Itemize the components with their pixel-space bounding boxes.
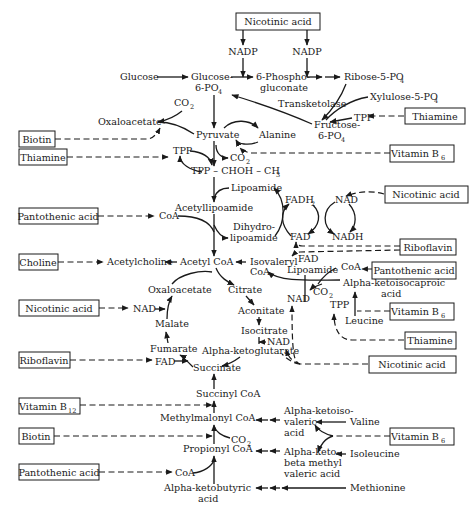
svg-text:6-PO: 6-PO: [195, 82, 219, 93]
propionyl-coa: Propionyl CoA: [183, 443, 254, 454]
6-phosphogluconate: 6-Phospho-: [256, 71, 310, 82]
citrate: Citrate: [228, 284, 262, 295]
aconitate: Aconitate: [237, 305, 285, 316]
label-vitamin-b6-mid: Vitamin B: [390, 306, 439, 317]
label-thiamine-low: Thiamine: [407, 335, 453, 346]
svg-text:valeric: valeric: [283, 416, 317, 427]
box-vitamin-b6-top: Vitamin B 6: [390, 145, 454, 162]
svg-text:valeric acid: valeric acid: [283, 468, 340, 479]
svg-text:4: 4: [434, 97, 438, 105]
svg-text:NADH: NADH: [332, 231, 363, 242]
svg-text:6-PO: 6-PO: [318, 130, 342, 141]
alpha-ketobutyric-acid: Alpha-ketobutyric: [163, 482, 251, 493]
svg-text:FAD: FAD: [298, 253, 319, 264]
box-thiamine-right: Thiamine: [405, 108, 465, 124]
fumarate: Fumarate: [150, 343, 198, 354]
svg-text:FAD: FAD: [290, 231, 311, 242]
svg-text:acid: acid: [198, 493, 218, 504]
glucose-6-po4: Glucose-: [191, 71, 233, 82]
svg-text:2: 2: [190, 103, 194, 111]
svg-text:Lipoamide: Lipoamide: [287, 264, 338, 275]
label-pantothenic-acid-low: Pantothenic acid: [18, 467, 99, 478]
svg-text:4: 4: [341, 136, 345, 144]
pyruvate: Pyruvate: [196, 129, 240, 140]
svg-text:4: 4: [400, 77, 404, 85]
acetyl-coa: Acetyl CoA: [179, 256, 234, 267]
box-nicotinic-acid-top: Nicotinic acid: [236, 13, 320, 30]
isocitrate: Isocitrate: [241, 325, 288, 336]
isoleucine: Isoleucine: [350, 448, 400, 459]
svg-text:6: 6: [441, 437, 445, 445]
glucose: Glucose: [120, 71, 159, 82]
box-vitamin-b6-mid: Vitamin B 6: [390, 303, 454, 320]
label-biotin-top: Biotin: [23, 134, 52, 145]
box-riboflavin-left: Riboflavin: [19, 352, 70, 368]
box-nicotinic-acid-left: Nicotinic acid: [19, 300, 99, 316]
svg-text:NADP: NADP: [292, 46, 322, 57]
label-riboflavin-left: Riboflavin: [20, 355, 69, 366]
svg-text:CO: CO: [230, 152, 245, 163]
svg-text:NAD: NAD: [335, 194, 358, 205]
xylulose-5-po4: Xylulose-5-PO: [370, 91, 438, 102]
alpha-ketoglutarate: Alpha-ketoglutarate: [201, 345, 300, 356]
label-riboflavin-mid: Riboflavin: [404, 242, 453, 253]
ribose-5-po4: Ribose-5-PO: [344, 71, 404, 82]
box-nicotinic-acid-low: Nicotinic acid: [369, 356, 456, 373]
leucine: Leucine: [345, 315, 384, 326]
svg-text:lipoamide: lipoamide: [230, 232, 278, 243]
box-pantothenic-acid-low: Pantothenic acid: [18, 464, 99, 480]
alpha-ketoisovaleric-acid: Alpha-ketoiso-: [283, 405, 353, 416]
svg-text:NAD: NAD: [287, 293, 310, 304]
label-vitamin-b6-top: Vitamin B: [390, 148, 439, 159]
box-biotin-top: Biotin: [19, 131, 55, 147]
label-thiamine-left: Thiamine: [20, 152, 66, 163]
succinate: Succinate: [193, 362, 241, 373]
oxaloacetate-top: Oxaloacetate: [98, 116, 162, 127]
box-riboflavin-mid: Riboflavin: [400, 239, 456, 255]
box-pantothenic-acid-top: Pantothenic acid: [17, 208, 98, 224]
svg-text:NADP: NADP: [228, 46, 258, 57]
svg-text:CoA: CoA: [341, 261, 362, 272]
svg-text:gluconate: gluconate: [260, 82, 308, 93]
svg-text:Dihydro-: Dihydro-: [233, 221, 275, 232]
box-thiamine-left: Thiamine: [19, 149, 67, 165]
svg-text:FADH: FADH: [285, 194, 314, 205]
alpha-keto-beta-methylvaleric-acid: Alpha-keto-: [283, 446, 340, 457]
box-nicotinic-acid-mid: Nicotinic acid: [385, 186, 468, 203]
lipoamide: Lipoamide: [231, 182, 282, 193]
label-thiamine-right: Thiamine: [412, 111, 458, 122]
label-vitamin-b6-low: Vitamin B: [390, 431, 439, 442]
alpha-ketoisocaproic-acid: Alpha-ketoisocaproic: [342, 277, 445, 288]
box-choline: Choline: [19, 254, 58, 270]
svg-text:acid: acid: [284, 427, 304, 438]
label-biotin-low: Biotin: [22, 431, 51, 442]
label-pantothenic-acid-top: Pantothenic acid: [17, 211, 98, 222]
svg-text:12: 12: [68, 407, 76, 415]
label-choline: Choline: [19, 257, 57, 268]
svg-text:CO: CO: [313, 286, 328, 297]
label-pantothenic-acid-right: Pantothenic acid: [373, 265, 454, 276]
svg-text:beta methyl: beta methyl: [284, 457, 342, 468]
acetylcholine: Acetylcholine: [106, 256, 173, 267]
oxaloacetate-tca: Oxaloacetate: [148, 284, 212, 295]
svg-text:FAD: FAD: [155, 356, 176, 367]
svg-text:acid: acid: [381, 288, 401, 299]
svg-text:TPP: TPP: [330, 299, 350, 310]
svg-text:3: 3: [276, 171, 280, 179]
malate: Malate: [155, 318, 189, 329]
svg-text:TPP: TPP: [173, 145, 193, 156]
label-nicotinic-acid-left: Nicotinic acid: [25, 303, 93, 314]
svg-text:TPP – CHOH – CH: TPP – CHOH – CH: [191, 165, 280, 176]
svg-text:CoA: CoA: [250, 266, 271, 277]
acetyllipoamide: Acetyllipoamide: [174, 202, 253, 213]
valine: Valine: [349, 416, 380, 427]
box-biotin-low: Biotin: [19, 428, 54, 444]
vitamin-metabolism-diagram: Nicotinic acid Thiamine Biotin Thiamine …: [0, 0, 472, 519]
svg-text:6: 6: [441, 154, 445, 162]
label-nicotinic-acid-top: Nicotinic acid: [244, 16, 312, 27]
label-nicotinic-acid-mid: Nicotinic acid: [392, 189, 460, 200]
succinyl-coa: Succinyl CoA: [196, 388, 261, 399]
methionine: Methionine: [350, 482, 406, 493]
svg-text:6: 6: [441, 312, 445, 320]
box-vitamin-b6-low: Vitamin B 6: [390, 428, 454, 445]
